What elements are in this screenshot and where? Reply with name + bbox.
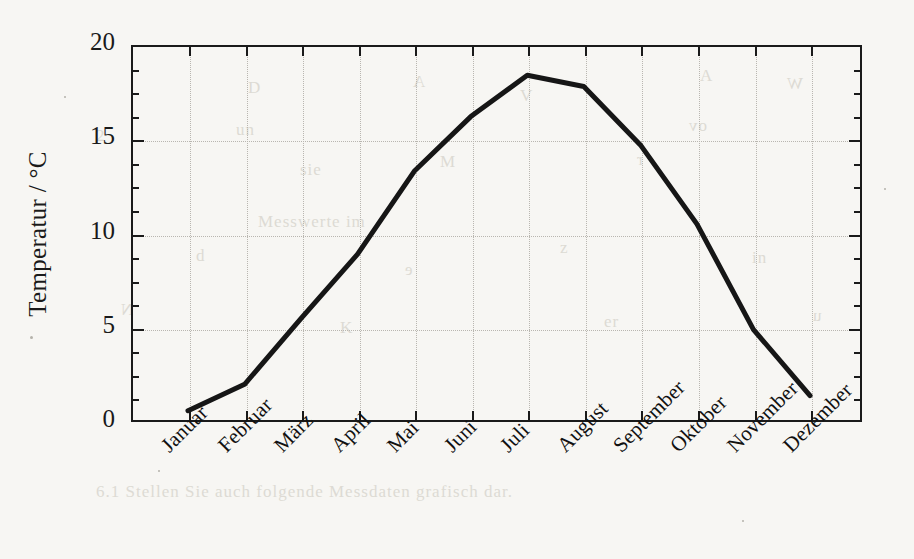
- gridline-vertical: [247, 47, 248, 420]
- y-axis-tick-major: [133, 140, 144, 142]
- gridline-horizontal: [133, 141, 860, 142]
- y-axis-tick-minor: [133, 70, 139, 72]
- y-axis-tick-label: 10: [90, 218, 115, 243]
- y-axis-tick-minor: [133, 305, 139, 307]
- gridline-vertical: [529, 47, 530, 420]
- x-axis-tick: [359, 47, 361, 56]
- y-axis-tick-major: [849, 235, 860, 237]
- gridline-horizontal: [133, 330, 860, 331]
- temperature-line-chart: Temperatur / °C 05101520 JanuarFebruarMä…: [0, 0, 914, 559]
- gridline-vertical: [473, 47, 474, 420]
- y-axis-tick-major: [849, 329, 860, 331]
- x-axis-tick: [755, 47, 757, 56]
- y-axis-tick-major: [849, 140, 860, 142]
- y-axis-tick-minor: [133, 117, 139, 119]
- x-axis-tick: [585, 47, 587, 56]
- y-axis-tick-minor: [854, 70, 860, 72]
- y-axis-tick-minor: [854, 258, 860, 260]
- y-axis-tick-minor: [854, 305, 860, 307]
- y-axis-tick-minor: [854, 352, 860, 354]
- gridline-horizontal: [133, 236, 860, 237]
- gridline-vertical: [586, 47, 587, 420]
- y-axis-tick-minor: [133, 258, 139, 260]
- y-axis-tick-minor: [133, 352, 139, 354]
- y-axis-tick-minor: [854, 282, 860, 284]
- x-axis-tick: [472, 411, 474, 420]
- y-axis-tick-minor: [133, 187, 139, 189]
- y-axis-tick-label: 0: [103, 406, 116, 431]
- y-axis-tick-label: 20: [90, 29, 115, 54]
- gridline-vertical: [360, 47, 361, 420]
- x-axis-tick: [472, 47, 474, 56]
- y-axis-tick-minor: [133, 376, 139, 378]
- figure-page: DAVAW2unovsieMrMesswerte imdezinNKeru6.1…: [0, 0, 914, 559]
- gridline-vertical: [303, 47, 304, 420]
- x-axis-tick-label: Juli: [495, 418, 535, 458]
- gridline-vertical: [699, 47, 700, 420]
- y-axis-label: Temperatur / °C: [24, 151, 52, 316]
- y-axis-tick-minor: [133, 211, 139, 213]
- x-axis-tick: [528, 47, 530, 56]
- y-axis-tick-minor: [854, 93, 860, 95]
- y-axis-tick-minor: [133, 164, 139, 166]
- gridline-vertical: [756, 47, 757, 420]
- x-axis-tick: [246, 47, 248, 56]
- plot-area-frame: [131, 45, 862, 422]
- y-axis-tick-minor: [854, 117, 860, 119]
- y-axis-tick-label: 5: [103, 312, 116, 337]
- x-axis-tick: [528, 411, 530, 420]
- y-axis-tick-minor: [854, 187, 860, 189]
- x-axis-tick: [811, 47, 813, 56]
- y-axis-tick-minor: [854, 164, 860, 166]
- x-axis-tick: [302, 47, 304, 56]
- x-axis-tick: [415, 47, 417, 56]
- gridline-vertical: [812, 47, 813, 420]
- y-axis-tick-minor: [133, 93, 139, 95]
- y-axis-tick-major: [133, 329, 144, 331]
- y-axis-tick-minor: [133, 282, 139, 284]
- y-axis-label-wrap: Temperatur / °C: [18, 45, 58, 422]
- y-axis-tick-major: [133, 235, 144, 237]
- y-axis-tick-label: 15: [90, 123, 115, 148]
- gridline-vertical: [416, 47, 417, 420]
- y-axis-tick-minor: [854, 211, 860, 213]
- y-axis-tick-minor: [854, 399, 860, 401]
- x-axis-tick: [698, 47, 700, 56]
- gridline-vertical: [642, 47, 643, 420]
- gridline-vertical: [190, 47, 191, 420]
- x-axis-tick: [189, 47, 191, 56]
- x-axis-tick: [641, 47, 643, 56]
- x-axis-tick: [415, 411, 417, 420]
- y-axis-tick-minor: [133, 399, 139, 401]
- y-axis-tick-minor: [854, 376, 860, 378]
